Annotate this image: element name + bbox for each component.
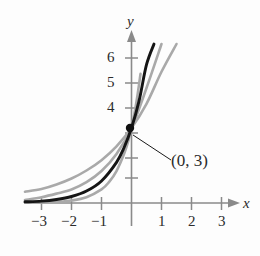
x-tick-label-minus-3: −3 [31,214,47,229]
x-tick-label-2: 2 [188,214,196,229]
x-tick-label-minus-2: −2 [61,214,77,229]
x-axis-label: x [243,196,250,211]
marked-point-dot [126,124,134,132]
point-annotation-label: (0, 3) [171,152,208,169]
x-tick-label-minus-1: −1 [91,214,107,229]
y-tick-label-5: 5 [107,75,115,90]
y-axis-label: y [127,14,134,29]
curve-gray-mid [25,44,162,200]
y-tick-label-6: 6 [107,50,115,65]
annotation-leader-line [133,135,171,160]
exponential-graph-figure: y x 6 5 4 −3 −2 −1 1 2 3 (0, 3) [0,0,260,256]
y-tick-label-4: 4 [107,100,115,115]
x-tick-label-1: 1 [158,214,166,229]
x-tick-label-3: 3 [218,214,226,229]
curves-group [25,44,177,203]
